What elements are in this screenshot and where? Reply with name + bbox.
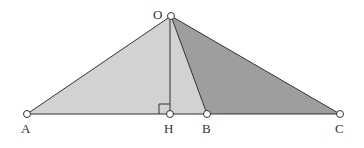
vertex-b	[204, 111, 211, 118]
label-h: H	[164, 121, 173, 136]
vertex-h	[167, 111, 174, 118]
label-b: B	[202, 121, 211, 136]
vertex-c	[337, 111, 344, 118]
vertex-a	[24, 111, 31, 118]
label-a: A	[21, 121, 31, 136]
geometry-diagram: O A H B C	[0, 0, 364, 148]
vertex-o	[168, 13, 175, 20]
label-c: C	[335, 121, 344, 136]
label-o: O	[153, 7, 162, 22]
